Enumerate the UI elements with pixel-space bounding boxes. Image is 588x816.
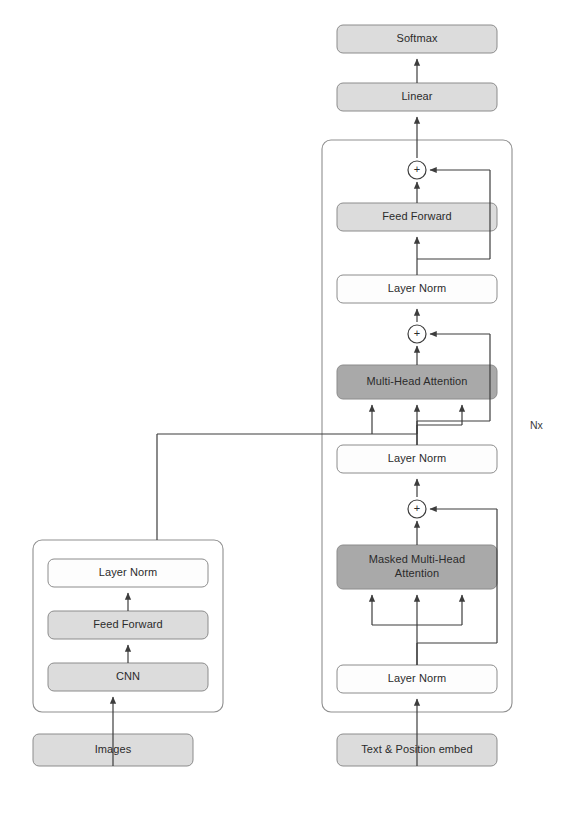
box-encoder-layer-norm-shape (48, 559, 208, 587)
box-decoder-feed-forward-shape (337, 203, 497, 231)
box-encoder-feed-forward-shape (48, 611, 208, 639)
add-residual-cross-attention-circle (408, 325, 426, 343)
box-decoder-layer-norm-mid-shape (337, 445, 497, 473)
box-softmax-shape (337, 25, 497, 53)
repeat-count-label: Nx (530, 419, 543, 431)
box-decoder-layer-norm-bottom-shape (337, 665, 497, 693)
box-cnn-shape (48, 663, 208, 691)
box-linear-shape (337, 83, 497, 111)
diagram-canvas (0, 0, 588, 816)
add-residual-masked-attention-circle (408, 500, 426, 518)
transformer-architecture-diagram: Softmax Linear + + + Feed Forward Layer … (0, 0, 588, 816)
box-decoder-layer-norm-top-shape (337, 275, 497, 303)
add-residual-feed-forward-circle (408, 161, 426, 179)
box-masked-multi-head-attention-shape (337, 545, 497, 589)
connector-lines (113, 59, 497, 766)
box-multi-head-attention-shape (337, 365, 497, 399)
